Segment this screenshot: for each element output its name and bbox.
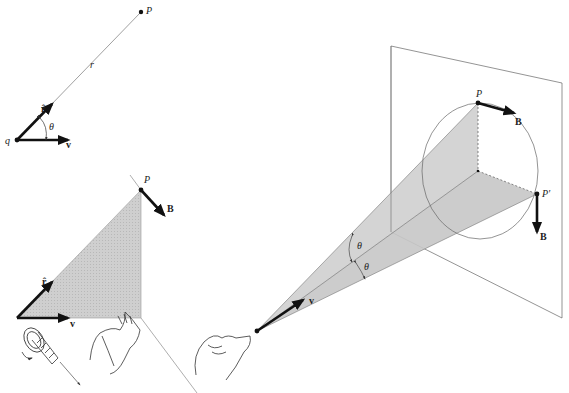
label-theta-a: θ [49, 121, 54, 132]
diagonal-line [141, 318, 197, 393]
point-p [139, 188, 144, 193]
angle-arc [40, 118, 46, 140]
label-b-b: B [167, 203, 174, 214]
charge-q [15, 138, 20, 143]
label-p-prime: P′ [541, 188, 551, 199]
label-b-c1: B [515, 116, 522, 127]
point-p-prime [535, 192, 540, 197]
field-b-arrow [141, 190, 164, 215]
screw-illustration [20, 324, 80, 385]
label-rhat-b: r̂ [42, 276, 47, 287]
panel-c [195, 46, 562, 380]
label-q: q [5, 135, 10, 146]
label-v-b: v [70, 318, 75, 329]
right-hand-illustration [90, 312, 140, 374]
label-v-a: v [66, 139, 71, 150]
label-rhat-a: r̂ [41, 103, 46, 114]
label-p-b: P [143, 174, 150, 185]
velocity-arrow [257, 300, 303, 331]
extension-line [130, 175, 141, 190]
charge-q [255, 329, 260, 334]
field-b-arrow-p [478, 103, 514, 113]
thumb-hand-illustration [195, 336, 250, 380]
point-p [476, 101, 481, 106]
diagram-canvas: P r r̂ θ q v P B r̂ v P B P′ B θ θ v [0, 0, 569, 393]
label-theta-c1: θ [357, 240, 362, 251]
label-theta-c2: θ [364, 261, 369, 272]
label-b-c2: B [540, 231, 547, 242]
panel-a [15, 10, 144, 143]
point-p [139, 10, 143, 14]
label-v-c: v [309, 295, 314, 306]
label-p-a: P [145, 5, 152, 16]
label-r: r [90, 59, 94, 70]
axis-line [257, 171, 478, 331]
label-p-c: P [475, 88, 482, 99]
